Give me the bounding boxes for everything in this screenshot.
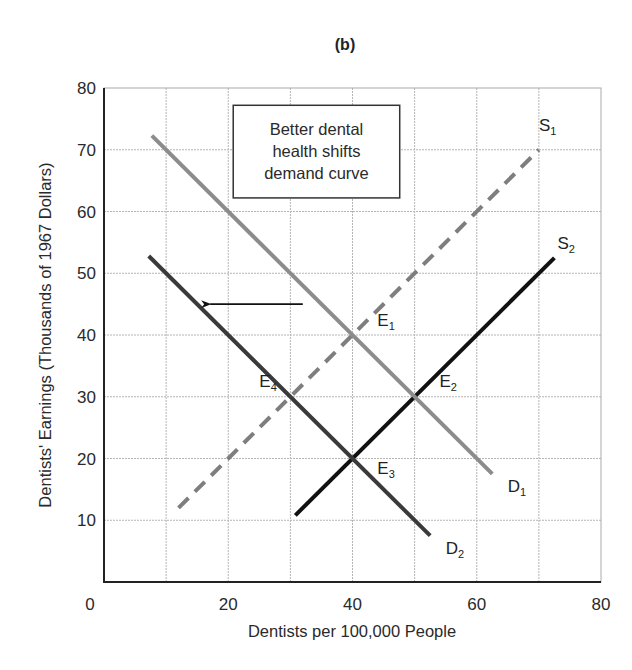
y-tick-label: 40 (77, 326, 96, 345)
supply-demand-chart: (b) 1020304050607080 020406080 Dentists … (0, 0, 632, 670)
y-tick-label: 60 (77, 203, 96, 222)
x-tick-label: 60 (467, 595, 486, 614)
y-tick-label: 30 (77, 388, 96, 407)
x-tick-label: 80 (592, 595, 611, 614)
textbox-line: health shifts (272, 142, 360, 160)
label-d1: D1 (508, 477, 526, 498)
annotation-textbox: Better dentalhealth shiftsdemand curve (233, 105, 399, 198)
y-tick-label: 80 (77, 79, 96, 98)
label-s2: S2 (558, 234, 575, 255)
x-tick-label: 0 (85, 595, 94, 614)
x-tick-label: 40 (343, 595, 362, 614)
x-tick-label: 20 (219, 595, 238, 614)
curve-d2 (149, 256, 430, 536)
y-tick-labels: 1020304050607080 (77, 79, 96, 530)
chart-title: (b) (335, 36, 355, 53)
y-tick-label: 10 (77, 511, 96, 530)
x-axis-label: Dentists per 100,000 People (248, 622, 456, 640)
label-e3: E3 (377, 459, 394, 480)
label-e4: E4 (259, 372, 276, 393)
label-e2: E2 (439, 372, 456, 393)
label-e1: E1 (377, 311, 394, 332)
label-d2: D2 (446, 539, 464, 560)
y-tick-label: 70 (77, 141, 96, 160)
y-tick-label: 50 (77, 264, 96, 283)
label-s1: S1 (539, 116, 556, 137)
y-tick-label: 20 (77, 450, 96, 469)
textbox-line: Better dental (270, 120, 364, 138)
textbox-line: demand curve (264, 164, 369, 182)
x-tick-labels: 020406080 (85, 595, 610, 614)
y-axis-label: Dentists' Earnings (Thousands of 1967 Do… (36, 162, 54, 507)
